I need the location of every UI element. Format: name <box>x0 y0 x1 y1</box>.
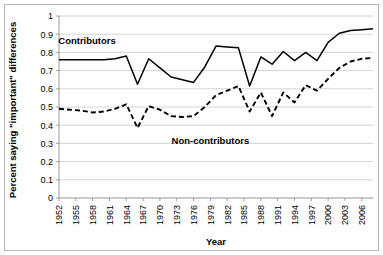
x-tick-label: 1967 <box>138 205 148 225</box>
y-tick-label: 0.7 <box>40 66 53 76</box>
y-tick-label: 0.1 <box>40 175 53 185</box>
y-axis-title: Percent saying "important" differences <box>7 22 18 198</box>
x-axis-title: Year <box>206 236 226 247</box>
y-tick-label: 0.3 <box>40 139 53 149</box>
y-tick-labels: 00.10.20.30.40.50.60.70.80.91 <box>40 11 59 203</box>
x-tick-label: 1976 <box>189 205 199 225</box>
x-tick-label: 1997 <box>307 205 317 225</box>
x-tick-label: 1979 <box>206 205 216 225</box>
x-tick-label: 1988 <box>256 205 266 225</box>
x-tick-label: 1994 <box>290 205 300 225</box>
contributors-label: Contributors <box>58 35 116 46</box>
y-tick-label: 0 <box>48 193 53 203</box>
x-tick-label: 1961 <box>105 205 115 225</box>
x-tick-label: 1991 <box>273 205 283 225</box>
x-tick-labels: 1952195519581961196419671970197319761979… <box>54 198 367 225</box>
x-tick-label: 1973 <box>172 205 182 225</box>
y-tick-label: 1 <box>48 11 53 21</box>
y-tick-label: 0.9 <box>40 30 53 40</box>
line-chart-plot: 00.10.20.30.40.50.60.70.80.91 1952195519… <box>0 0 383 255</box>
x-tick-label: 1982 <box>223 205 233 225</box>
y-tick-label: 0.6 <box>40 84 53 94</box>
chart-figure: 00.10.20.30.40.50.60.70.80.91 1952195519… <box>0 0 383 255</box>
y-tick-label: 0.2 <box>40 157 53 167</box>
x-tick-label: 1955 <box>71 205 81 225</box>
x-tick-label: 2003 <box>340 205 350 225</box>
y-tick-label: 0.5 <box>40 102 53 112</box>
x-tick-label: 1952 <box>54 205 64 225</box>
series-line-non-contributors <box>59 58 373 128</box>
x-tick-label: 1970 <box>155 205 165 225</box>
x-tick-label: 1964 <box>122 205 132 225</box>
x-tick-label: 2000 <box>323 205 333 225</box>
series-annotations: ContributorsNon-contributors <box>58 35 249 146</box>
y-tick-label: 0.8 <box>40 48 53 58</box>
x-tick-label: 1958 <box>88 205 98 225</box>
x-tick-label: 1985 <box>239 205 249 225</box>
non-contributors-label: Non-contributors <box>172 135 250 146</box>
y-tick-label: 0.4 <box>40 121 53 131</box>
x-tick-label: 2006 <box>357 205 367 225</box>
